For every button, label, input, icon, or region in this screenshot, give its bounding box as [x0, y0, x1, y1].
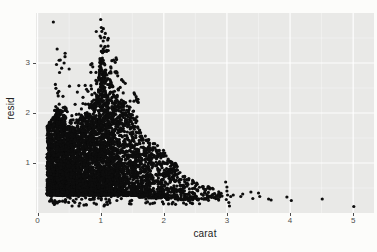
y-tick-mark — [33, 63, 36, 64]
y-tick-mark — [33, 163, 36, 164]
x-tick-label: 1 — [93, 216, 109, 225]
x-tick-label: 5 — [345, 216, 361, 225]
plot-panel — [36, 13, 374, 213]
x-tick-label: 2 — [156, 216, 172, 225]
y-tick-label: 3 — [8, 58, 30, 67]
x-tick-label: 4 — [282, 216, 298, 225]
figure-page: resid carat 012345 123 — [0, 0, 377, 252]
scatter-points-canvas — [36, 13, 374, 213]
x-tick-label: 0 — [30, 216, 46, 225]
y-tick-mark — [33, 113, 36, 114]
x-tick-label: 3 — [219, 216, 235, 225]
y-tick-label: 1 — [8, 158, 30, 167]
x-axis-title: carat — [36, 228, 374, 239]
y-tick-label: 2 — [8, 108, 30, 117]
